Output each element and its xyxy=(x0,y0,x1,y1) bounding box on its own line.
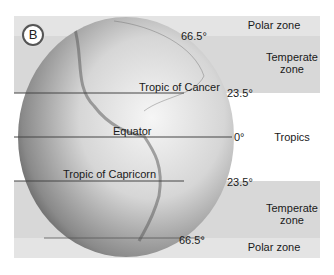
latitude-0: 0° xyxy=(234,131,245,143)
panel-badge: B xyxy=(22,24,44,46)
zone-temperate-south-line2: zone xyxy=(252,214,332,226)
equator-label: Equator xyxy=(113,125,152,137)
zone-polar-south: Polar zone xyxy=(234,241,314,253)
zone-temperate-north: Temperate zone xyxy=(252,51,332,75)
latitude-66-south: 66.5° xyxy=(179,234,205,246)
zone-temperate-south-line1: Temperate xyxy=(252,202,332,214)
zone-polar-north: Polar zone xyxy=(234,19,314,31)
latitude-23-south: 23.5° xyxy=(227,176,253,188)
capricorn-label: Tropic of Capricorn xyxy=(63,168,156,180)
latitude-66-north: 66.5° xyxy=(181,30,207,42)
zone-temperate-south: Temperate zone xyxy=(252,202,332,226)
zone-temperate-north-line1: Temperate xyxy=(252,51,332,63)
zone-temperate-north-line2: zone xyxy=(252,63,332,75)
zone-tropics: Tropics xyxy=(252,131,332,143)
latitude-23-north: 23.5° xyxy=(227,87,253,99)
cancer-label: Tropic of Cancer xyxy=(139,81,220,93)
